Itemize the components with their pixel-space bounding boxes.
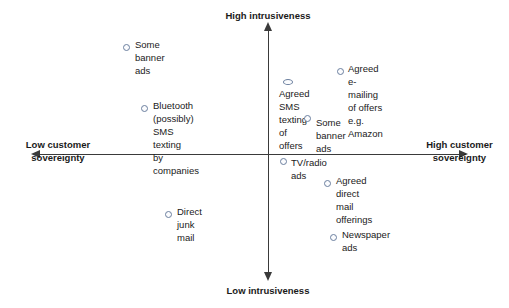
scatter-quadrant-chart: High intrusiveness Low intrusiveness Low… [0,0,509,308]
point-marker [304,115,311,122]
axis-label-low-intrusiveness: Low intrusiveness [188,285,348,298]
point-marker [165,211,172,218]
point-marker [280,158,287,165]
point-label: Agreed direct mail offerings [336,174,372,226]
point-marker [123,44,130,51]
arrow-down-icon [264,272,272,281]
point-marker [141,105,148,112]
point-label: Some banner ads [316,116,346,155]
point-label: Direct junk mail [177,205,202,244]
point-label: Agreed e-mailing of offers e.g. Amazon [348,62,383,140]
point-label: TV/radio ads [291,156,327,182]
axis-label-high-customer-sovereignty: High customer sovereignty [410,139,509,164]
arrow-up-icon [264,22,272,31]
axis-label-high-intrusiveness: High intrusiveness [188,10,348,23]
point-marker [337,68,344,75]
point-marker [324,180,331,187]
point-label: Newspaper ads [342,228,390,254]
vertical-axis [268,27,269,279]
point-label: Bluetooth (possibly) SMS texting by comp… [153,99,199,177]
axis-label-low-customer-sovereignty: Low customer sovereignty [2,139,114,164]
point-label: Some banner ads [135,38,165,77]
point-marker [330,234,337,241]
point-marker [283,79,293,85]
